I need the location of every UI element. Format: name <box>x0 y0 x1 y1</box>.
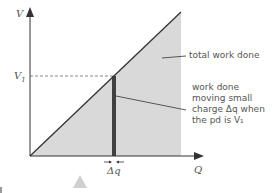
y-axis-label: V <box>16 8 23 19</box>
annotation-small-work: work done moving small charge Δq when th… <box>192 82 265 126</box>
delta-q-label: Δq <box>107 165 121 176</box>
annotation-line-1: work done <box>192 82 265 93</box>
x-axis-label: Q <box>194 164 202 175</box>
edge-mark <box>0 187 2 193</box>
small-charge-strip <box>112 76 116 156</box>
annotation-line-2: moving small <box>192 93 265 104</box>
x-axis-arrow-icon <box>194 152 204 160</box>
v1-label-sub: 1 <box>21 76 25 84</box>
marker-triangle-icon <box>73 175 87 188</box>
dq-arrowhead-right-icon <box>116 161 119 164</box>
annotation-line-3: charge Δq when <box>192 104 265 115</box>
dq-arrowhead-left-icon <box>109 161 112 164</box>
y-axis-arrow-icon <box>26 7 34 17</box>
annotation-total-work: total work done <box>189 50 260 61</box>
annotation-line-4: the pd is V₁ <box>192 115 265 126</box>
v1-label: V1 <box>14 70 26 86</box>
